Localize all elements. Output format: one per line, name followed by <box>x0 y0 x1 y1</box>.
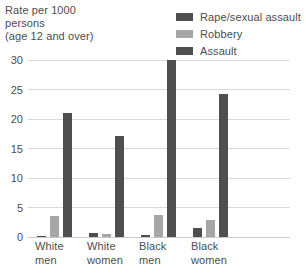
y-axis-tick-label: 30 <box>11 55 23 66</box>
legend-label-assault: Assault <box>200 45 237 57</box>
legend-item-assault: Assault <box>176 43 304 58</box>
legend-item-robbery: Robbery <box>176 26 304 41</box>
chart-title-line-2: persons <box>5 17 140 30</box>
y-axis-tick-label: 5 <box>17 202 23 213</box>
x-axis-labels: WhitemenWhitewomenBlackmenBlackwomen <box>28 240 290 276</box>
bar <box>219 94 228 237</box>
legend-swatch-icon-rape-sexual-assault <box>176 13 193 21</box>
bar <box>115 136 124 237</box>
y-axis-tick-label: 20 <box>11 114 23 125</box>
x-axis-category-line: White <box>35 240 64 254</box>
x-axis-category-line: Black <box>191 240 227 254</box>
bar <box>50 216 59 237</box>
bar <box>193 228 202 237</box>
chart-title-line-1: Rate per 1000 <box>5 4 140 17</box>
legend-label-robbery: Robbery <box>200 28 242 40</box>
bar-group <box>89 60 128 237</box>
x-axis-category-line: women <box>191 254 227 268</box>
x-axis-category-line: Black <box>139 240 166 254</box>
legend-label-rape-sexual-assault: Rape/sexual assault <box>200 11 301 23</box>
bar <box>167 60 176 237</box>
legend-swatch-icon-robbery <box>176 30 193 38</box>
bar <box>154 215 163 237</box>
bar <box>37 236 46 238</box>
x-axis-category-line: men <box>35 254 64 268</box>
bar-chart: Rate per 1000 persons (age 12 and over) … <box>0 0 306 279</box>
bar-group <box>37 60 76 237</box>
y-axis-tick-label: 0 <box>17 232 23 243</box>
bar <box>89 233 98 237</box>
bar-group <box>193 60 232 237</box>
bar <box>63 113 72 237</box>
chart-title-line-3: (age 12 and over) <box>5 30 140 43</box>
bar <box>102 234 111 237</box>
legend-swatch-icon-assault <box>176 47 193 55</box>
bar <box>206 220 215 237</box>
y-axis-tick-label: 25 <box>11 84 23 95</box>
chart-legend: Rape/sexual assault Robbery Assault <box>176 9 304 60</box>
bar-group <box>141 60 180 237</box>
x-axis-category-label: Whitewomen <box>87 240 123 267</box>
bar <box>141 235 150 237</box>
legend-item-rape-sexual-assault: Rape/sexual assault <box>176 9 304 24</box>
chart-title: Rate per 1000 persons (age 12 and over) <box>5 4 140 44</box>
x-axis-category-label: Whitemen <box>35 240 64 267</box>
plot-area: 051015202530 <box>28 60 290 237</box>
x-axis-category-line: men <box>139 254 166 268</box>
x-axis-category-label: Blackmen <box>139 240 166 267</box>
x-axis-category-line: White <box>87 240 123 254</box>
x-axis-category-line: women <box>87 254 123 268</box>
y-axis-tick-label: 10 <box>11 173 23 184</box>
y-axis-tick-label: 15 <box>11 143 23 154</box>
x-axis-category-label: Blackwomen <box>191 240 227 267</box>
